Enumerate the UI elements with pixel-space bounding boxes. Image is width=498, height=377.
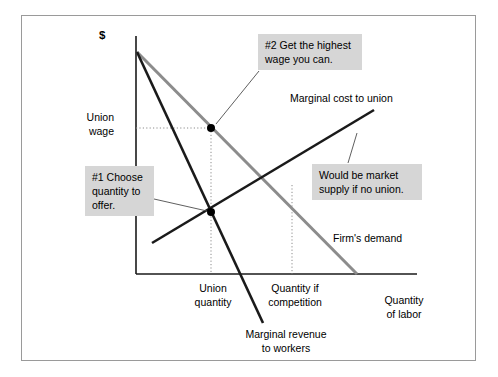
- callout-3-leader-line: [348, 133, 357, 163]
- mr-equals-mc-point: [207, 208, 215, 216]
- marginal-revenue-curve-label: Marginal revenue to workers: [228, 328, 344, 355]
- union-quantity-axis-label: Union quantity: [179, 282, 247, 309]
- callout-market-supply-note: Would be market supply if no union.: [312, 164, 422, 200]
- firms-demand-curve-label: Firm's demand: [333, 232, 402, 246]
- union-wage-axis-label: Union wage: [70, 111, 114, 138]
- callout-step-1: #1 Choose quantity to offer.: [85, 166, 154, 216]
- quantity-if-competition-axis-label: Quantity if competition: [256, 282, 334, 309]
- y-axis-title: $: [99, 29, 105, 43]
- callout-step-2: #2 Get the highest wage you can.: [258, 34, 362, 70]
- callout-1-leader-line: [154, 199, 207, 211]
- union-monopoly-labor-market-diagram: $ Quantity of labor Union wage Union qua…: [0, 0, 498, 377]
- callout-2-leader-line: [216, 71, 259, 124]
- marginal-cost-curve-label: Marginal cost to union: [290, 92, 393, 106]
- union-wage-point: [207, 124, 215, 132]
- x-axis-title: Quantity of labor: [367, 294, 441, 321]
